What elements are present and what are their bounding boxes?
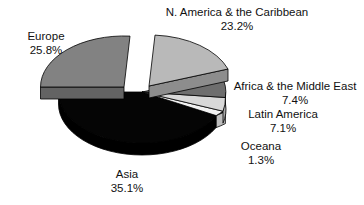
slice-label-name: Asia — [84, 168, 170, 182]
slice-label-percent: 35.1% — [84, 182, 170, 196]
slice-label-name: Latin America — [228, 108, 338, 122]
pie-chart: N. America & the Caribbean 23.2% Europe … — [0, 0, 364, 205]
slice-label-name: Africa & the Middle East — [228, 80, 362, 94]
slice-label-name: N. America & the Caribbean — [141, 6, 333, 20]
slice-europe-side — [41, 87, 125, 99]
slice-label-name: Oceana — [218, 140, 304, 154]
slice-label-percent: 1.3% — [218, 154, 304, 168]
slice-label-latin-america: Latin America 7.1% — [228, 108, 338, 135]
slice-label-asia: Asia 35.1% — [84, 168, 170, 195]
slice-label-africa-middle-east: Africa & the Middle East 7.4% — [228, 80, 362, 107]
slice-label-percent: 7.4% — [228, 94, 362, 108]
slice-label-percent: 7.1% — [228, 122, 338, 136]
slice-label-percent: 25.8% — [8, 44, 84, 58]
slice-label-oceana: Oceana 1.3% — [218, 140, 304, 167]
slice-label-europe: Europe 25.8% — [8, 30, 84, 57]
slice-label-percent: 23.2% — [141, 20, 333, 34]
slice-label-name: Europe — [8, 30, 84, 44]
slice-label-north-america-caribbean: N. America & the Caribbean 23.2% — [141, 6, 333, 33]
